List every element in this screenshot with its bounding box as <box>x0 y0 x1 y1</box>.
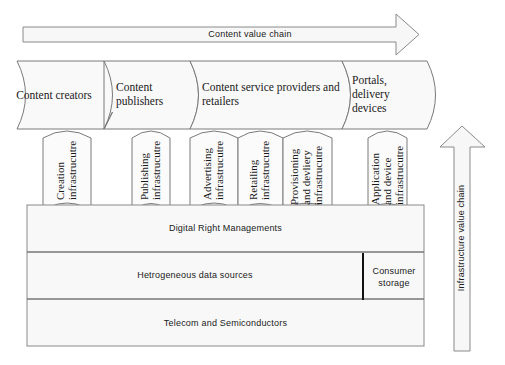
capsule-label-publishing: Publishing infrastrucutre <box>138 126 164 200</box>
layer-label-telecom: Telecom and Semiconductors <box>27 318 424 328</box>
layer-label-consumer-storage: Consumer storage <box>366 265 422 289</box>
value-chain-diagram: Content value chain Content creators Con… <box>0 0 505 365</box>
infrastructure-value-chain-label: Infrastructure value chain <box>456 178 468 298</box>
stage-label-content-publishers: Content publishers <box>116 80 188 108</box>
stage-label-content-service-providers: Content service providers and retailers <box>202 80 342 108</box>
capsule-label-retailing: Retailing infrastrucutre <box>247 126 273 200</box>
capsule-label-creation: Creation infrastrucutre <box>54 126 80 200</box>
layer-label-data-sources: Hetrogeneous data sources <box>27 270 363 280</box>
capsule-label-application: Application and device infrastrucutre <box>369 131 407 205</box>
content-value-chain-label: Content value chain <box>150 29 350 39</box>
stage-label-portals: Portals, delivery devices <box>352 73 406 115</box>
capsule-label-advertising: Advertising infrastrucutre <box>201 126 227 200</box>
capsule-label-provisioning: Provisioning and devliery infrastrucutre <box>288 131 326 205</box>
layer-label-drm: Digital Right Managements <box>27 223 424 233</box>
stage-label-content-creators: Content creators <box>4 88 104 102</box>
